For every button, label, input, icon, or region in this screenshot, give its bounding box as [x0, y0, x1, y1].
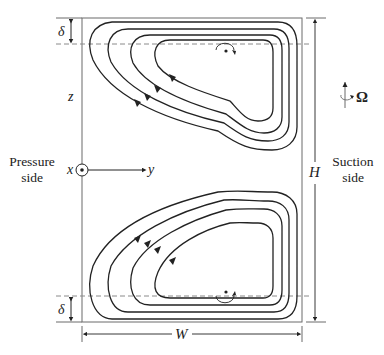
z-axis-label: z	[68, 90, 73, 104]
height-label: H	[309, 165, 320, 179]
upper-rotation-icon	[216, 43, 236, 55]
x-axis-label: x	[67, 163, 73, 177]
pressure-side-line2: side	[4, 170, 60, 186]
suction-side-line2: side	[326, 170, 380, 186]
upper-vortex	[90, 22, 297, 150]
lower-rotation-icon	[216, 290, 236, 302]
suction-side-line1: Suction	[326, 154, 380, 170]
omega-label: Ω	[356, 90, 368, 104]
delta-bottom-label: δ	[58, 303, 65, 317]
lower-vortex-arrows	[134, 235, 176, 265]
lower-vortex	[90, 191, 297, 319]
pressure-side-line1: Pressure	[4, 154, 60, 170]
width-label: W	[175, 327, 188, 341]
omega-rotation-icon	[341, 82, 354, 108]
x-axis-dot	[80, 168, 84, 172]
suction-side-label: Suction side	[326, 154, 380, 186]
y-axis-label: y	[148, 163, 154, 177]
pressure-side-label: Pressure side	[4, 154, 60, 186]
delta-top-label: δ	[58, 25, 65, 39]
